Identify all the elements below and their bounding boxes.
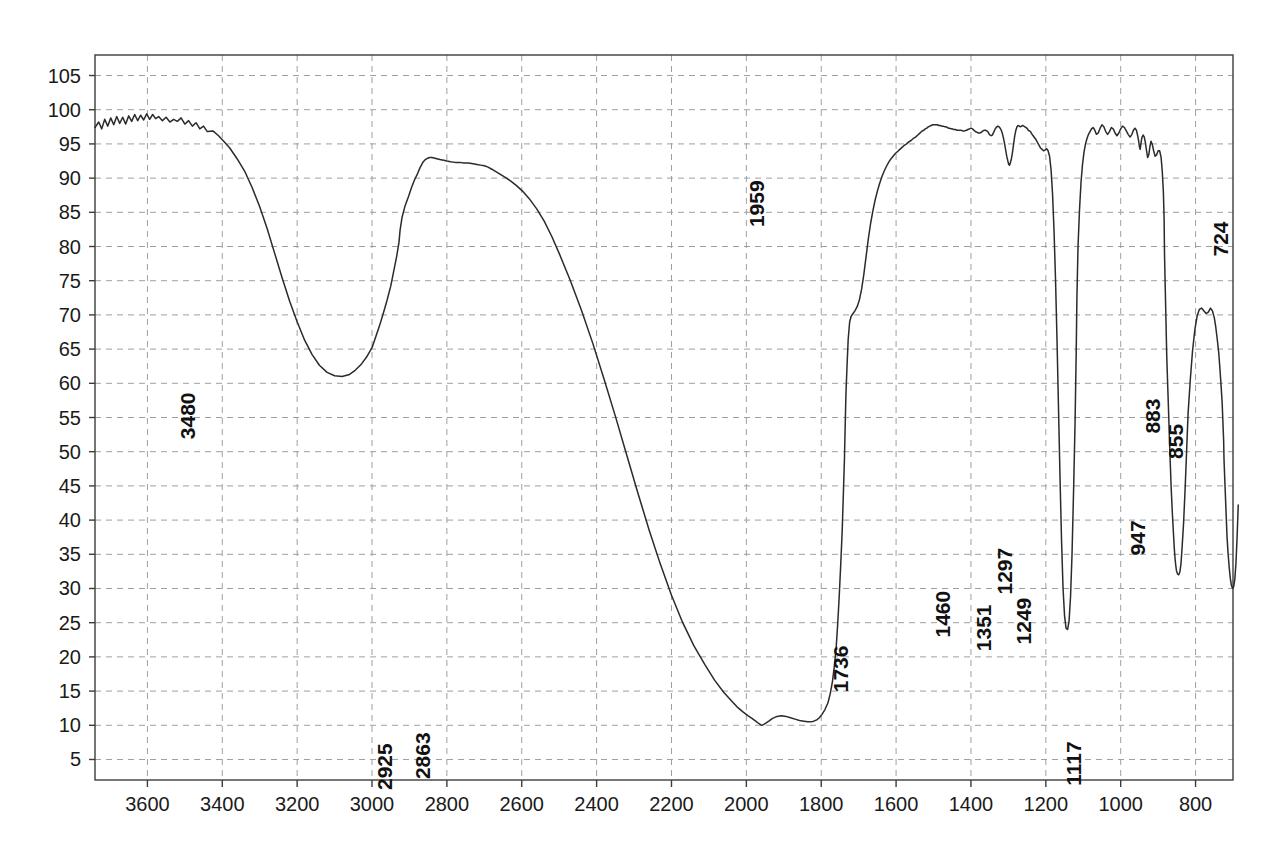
peak-label-2925: 2925 (373, 743, 396, 790)
y-tick-label: 35 (59, 543, 81, 565)
x-tick-label: 1200 (1024, 793, 1069, 815)
peak-label-text: 2925 (373, 743, 396, 790)
peak-label-1351: 1351 (972, 604, 995, 651)
y-tick-label: 15 (59, 680, 81, 702)
x-tick-label: 1000 (1098, 793, 1143, 815)
peak-label-724: 724 (1209, 221, 1232, 256)
y-tick-label: 65 (59, 338, 81, 360)
y-tick-label: 75 (59, 270, 81, 292)
y-tick-label: 80 (59, 236, 81, 258)
x-axis-tick-labels: 3600340032003000280026002400220020001800… (125, 793, 1212, 815)
y-tick-label: 40 (59, 509, 81, 531)
peak-label-text: 1959 (745, 180, 768, 227)
peak-label-text: 724 (1209, 221, 1232, 256)
peak-label-855: 855 (1164, 424, 1187, 459)
peak-label-1460: 1460 (932, 591, 955, 638)
y-tick-label: 95 (59, 133, 81, 155)
y-tick-label: 20 (59, 646, 81, 668)
y-tick-label: 50 (59, 441, 81, 463)
y-tick-label: 30 (59, 577, 81, 599)
peak-label-text: 947 (1126, 520, 1149, 555)
spectrum-canvas: 5101520253035404550556065707580859095100… (0, 0, 1280, 845)
x-tick-label: 1800 (799, 793, 844, 815)
peak-label-text: 855 (1164, 424, 1187, 459)
x-tick-label: 3000 (350, 793, 395, 815)
peak-label-text: 3480 (176, 392, 199, 439)
peak-label-1736: 1736 (829, 646, 852, 693)
y-tick-label: 70 (59, 304, 81, 326)
y-tick-label: 90 (59, 167, 81, 189)
peak-label-text: 1297 (993, 548, 1016, 595)
x-tick-label: 3600 (125, 793, 170, 815)
y-tick-label: 55 (59, 407, 81, 429)
peak-label-text: 1117 (1062, 741, 1085, 785)
y-tick-label: 5 (70, 748, 81, 770)
peak-label-text: 2863 (411, 732, 434, 779)
x-tick-label: 800 (1179, 793, 1212, 815)
peak-label-1117: 1117 (1062, 741, 1085, 785)
ir-spectrum-figure: 5101520253035404550556065707580859095100… (0, 0, 1280, 845)
peak-label-1249: 1249 (1012, 598, 1035, 645)
x-tick-label: 3200 (275, 793, 320, 815)
peak-label-1959: 1959 (745, 180, 768, 227)
y-tick-label: 105 (48, 65, 81, 87)
x-tick-label: 3400 (200, 793, 245, 815)
peak-label-text: 1351 (972, 604, 995, 651)
peak-label-text: 1249 (1012, 598, 1035, 645)
peak-label-2863: 2863 (411, 732, 434, 779)
y-tick-label: 25 (59, 612, 81, 634)
peak-label-947: 947 (1126, 520, 1149, 555)
x-tick-label: 2400 (574, 793, 619, 815)
y-tick-label: 45 (59, 475, 81, 497)
peak-label-1297: 1297 (993, 548, 1016, 595)
x-tick-label: 2200 (649, 793, 694, 815)
x-tick-label: 2000 (724, 793, 769, 815)
y-tick-label: 85 (59, 201, 81, 223)
x-tick-label: 1600 (874, 793, 919, 815)
peak-label-text: 1736 (829, 646, 852, 693)
y-tick-label: 60 (59, 372, 81, 394)
x-tick-label: 2800 (425, 793, 470, 815)
peak-label-883: 883 (1141, 399, 1164, 434)
y-tick-label: 10 (59, 714, 81, 736)
x-tick-label: 2600 (500, 793, 545, 815)
peak-label-3480: 3480 (176, 392, 199, 439)
peak-label-text: 883 (1141, 399, 1164, 434)
x-tick-label: 1400 (949, 793, 994, 815)
peak-label-text: 1460 (932, 591, 955, 638)
y-tick-label: 100 (48, 99, 81, 121)
